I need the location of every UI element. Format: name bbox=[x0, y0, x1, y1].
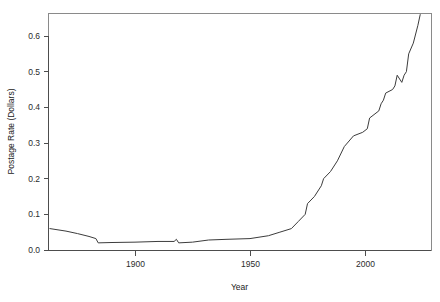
x-axis-title: Year bbox=[231, 282, 248, 292]
chart-canvas: 0.00.10.20.30.40.50.6190019502000YearPos… bbox=[0, 0, 440, 302]
y-tick-label: 0.3 bbox=[28, 138, 40, 148]
postage-rate-chart: 0.00.10.20.30.40.50.6190019502000YearPos… bbox=[0, 0, 440, 302]
y-tick-label: 0.4 bbox=[28, 102, 40, 112]
x-tick-label: 1950 bbox=[241, 259, 260, 269]
plot-panel-border bbox=[49, 14, 432, 251]
x-tick-label: 1900 bbox=[126, 259, 145, 269]
x-tick-label: 2000 bbox=[356, 259, 375, 269]
y-tick-label: 0.1 bbox=[28, 209, 40, 219]
y-axis-title: Postage Rate (Dollars) bbox=[6, 88, 16, 174]
y-axis bbox=[44, 36, 49, 250]
y-tick-label: 0.5 bbox=[28, 67, 40, 77]
axis-tick-labels: 0.00.10.20.30.40.50.6190019502000YearPos… bbox=[6, 31, 375, 292]
x-axis bbox=[48, 251, 431, 256]
data-series-line bbox=[50, 15, 420, 243]
y-tick-label: 0.6 bbox=[28, 31, 40, 41]
y-tick-label: 0.0 bbox=[28, 245, 40, 255]
y-tick-label: 0.2 bbox=[28, 174, 40, 184]
